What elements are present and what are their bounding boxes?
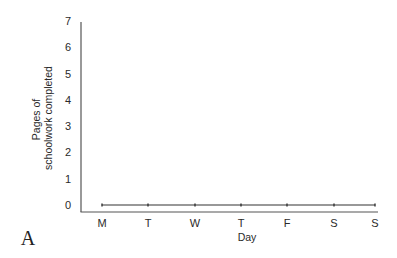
x-tick-label: S bbox=[371, 217, 378, 229]
y-tick-label: 2 bbox=[65, 146, 71, 158]
x-tick-label: T bbox=[238, 217, 245, 229]
x-tick-label: S bbox=[330, 217, 337, 229]
y-axis-title-line-2: schoolwork completed bbox=[42, 66, 54, 170]
y-tick-label: 0 bbox=[65, 199, 71, 211]
y-tick-label: 7 bbox=[65, 15, 71, 27]
y-axis-title: Pages of schoolwork completed bbox=[30, 66, 54, 170]
y-tick-label: 6 bbox=[65, 41, 71, 53]
x-axis-title: Day bbox=[238, 231, 257, 243]
y-tick-label: 1 bbox=[65, 173, 71, 185]
x-tick-label: W bbox=[190, 217, 201, 229]
panel-label: A bbox=[21, 227, 36, 249]
y-tick-label: 3 bbox=[65, 120, 71, 132]
x-axis-tick-labels: MTWTFSS bbox=[97, 217, 378, 229]
x-tick-label: M bbox=[97, 217, 106, 229]
line-chart: 01234567 Pages of schoolwork completed M… bbox=[0, 0, 397, 258]
y-tick-label: 5 bbox=[65, 68, 71, 80]
y-axis-tick-labels: 01234567 bbox=[65, 15, 71, 211]
y-tick-label: 4 bbox=[65, 94, 71, 106]
y-axis-title-line-1: Pages of bbox=[30, 99, 42, 141]
data-series-line bbox=[102, 204, 375, 207]
x-tick-label: F bbox=[284, 217, 291, 229]
x-tick-label: T bbox=[145, 217, 152, 229]
